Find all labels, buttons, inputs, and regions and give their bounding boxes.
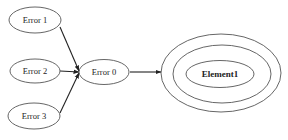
- node-error3-label: Error 3: [22, 111, 46, 121]
- edge-error3-to-error0: [60, 73, 79, 113]
- node-element1[interactable]: Element1: [161, 34, 281, 112]
- node-error0-label: Error 0: [92, 67, 116, 77]
- diagram-canvas: Error 1 Error 2 Error 3 Error 0 Element1: [0, 0, 288, 140]
- node-element1-label: Element1: [202, 69, 239, 79]
- node-error1[interactable]: Error 1: [9, 7, 61, 33]
- node-error3[interactable]: Error 3: [8, 103, 60, 129]
- node-error1-label: Error 1: [23, 15, 47, 25]
- edge-error2-to-error0: [60, 71, 79, 72]
- node-error2[interactable]: Error 2: [10, 59, 60, 83]
- edge-error1-to-error0: [60, 27, 79, 71]
- node-error2-label: Error 2: [23, 66, 47, 76]
- node-error0[interactable]: Error 0: [79, 60, 129, 85]
